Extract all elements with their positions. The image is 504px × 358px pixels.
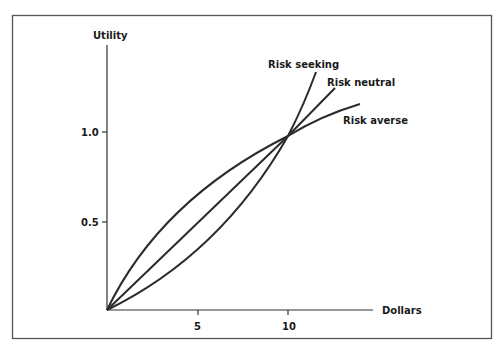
y-tick-label-05: 0.5 — [81, 217, 99, 228]
x-tick-label-10: 10 — [282, 321, 296, 332]
risk-neutral-label: Risk neutral — [327, 77, 395, 88]
y-tick-label-1: 1.0 — [81, 127, 99, 138]
x-tick-label-5: 5 — [194, 321, 201, 332]
risk-averse-curve — [107, 104, 360, 310]
risk-averse-label: Risk averse — [343, 115, 408, 126]
risk-seeking-curve — [107, 72, 316, 310]
x-axis-label: Dollars — [382, 305, 422, 316]
y-axis-label: Utility — [93, 30, 128, 41]
risk-seeking-label: Risk seeking — [268, 59, 339, 70]
risk-neutral-curve — [107, 88, 335, 310]
utility-chart: Utility Dollars 1.0 0.5 5 10 Risk seekin… — [0, 0, 504, 358]
chart-frame — [13, 16, 492, 339]
